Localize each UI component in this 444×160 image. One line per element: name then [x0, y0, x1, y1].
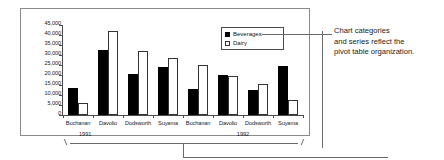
y-tick-mark: [59, 65, 63, 66]
y-tick-mark: [59, 95, 63, 96]
annotation-note: Chart categories and series reflect the …: [334, 26, 442, 58]
bar-beverages-buchanan-4[interactable]: [188, 89, 198, 115]
y-tick-mark: [59, 75, 63, 76]
x-group-label: 1992: [183, 130, 303, 138]
bar-dairy-davolio-1[interactable]: [108, 31, 118, 115]
bar-dairy-dodsworth-6[interactable]: [258, 84, 268, 115]
bar-beverages-davolio-1[interactable]: [98, 50, 108, 115]
y-tick-mark: [59, 105, 63, 106]
bar-group: [153, 25, 183, 115]
chart-legend[interactable]: Beverages Dairy: [221, 27, 284, 50]
y-axis-tick-labels: 05,00010,00015,00020,00025,00030,00035,0…: [25, 23, 61, 113]
callout-leader-from-legend: [262, 34, 322, 35]
bar-beverages-suyama-7[interactable]: [278, 66, 288, 115]
bracket-bar: [70, 143, 298, 144]
x-tick-mark: [153, 115, 154, 118]
legend-label-dairy: Dairy: [233, 39, 247, 48]
annotation-line-2: and series reflect the: [334, 37, 442, 48]
x-tick-mark: [93, 115, 94, 118]
callout-leader-to-note: [322, 34, 332, 35]
legend-swatch-icon-beverages: [225, 32, 230, 37]
bracket-right-tip-icon: [295, 139, 305, 145]
x-axis-category-labels: BuchananDavolioDodsworthSuyamaBuchananDa…: [63, 119, 303, 128]
bar-beverages-suyama-3[interactable]: [158, 67, 168, 115]
bar-group: [123, 25, 153, 115]
bracket-leader-vertical: [183, 143, 184, 157]
category-span-bracket: [65, 139, 303, 145]
bar-group: [63, 25, 93, 115]
bar-dairy-davolio-5[interactable]: [228, 76, 238, 115]
bar-dairy-buchanan-4[interactable]: [198, 65, 208, 115]
x-tick-mark: [183, 115, 184, 118]
bracket-leader-horizontal: [183, 157, 388, 158]
annotation-line-1: Chart categories: [334, 26, 442, 37]
bracket-left-tip-icon: [64, 139, 74, 145]
y-tick-mark: [59, 55, 63, 56]
x-tick-mark: [213, 115, 214, 118]
legend-label-beverages: Beverages: [233, 30, 262, 39]
y-tick-mark: [59, 45, 63, 46]
callout-leader-vertical: [322, 31, 323, 148]
bar-dairy-suyama-3[interactable]: [168, 58, 178, 115]
bar-dairy-buchanan-0[interactable]: [78, 103, 88, 115]
legend-entry-dairy: Dairy: [225, 39, 280, 48]
x-tick-mark: [273, 115, 274, 118]
x-category-label: Suyama: [270, 119, 306, 127]
x-group-label: 1991: [63, 130, 199, 138]
bar-dairy-suyama-7[interactable]: [288, 100, 298, 115]
bar-beverages-buchanan-0[interactable]: [68, 88, 78, 115]
x-tick-mark: [303, 115, 304, 118]
screenshot-root: 05,00010,00015,00020,00025,00030,00035,0…: [0, 0, 444, 160]
x-axis-group-labels: 19911992: [63, 130, 303, 139]
bar-group: [183, 25, 213, 115]
bar-group: [93, 25, 123, 115]
y-tick-mark: [59, 85, 63, 86]
x-tick-mark: [63, 115, 64, 118]
plot-area: 05,00010,00015,00020,00025,00030,00035,0…: [21, 9, 311, 137]
bar-dairy-dodsworth-2[interactable]: [138, 51, 148, 115]
bar-beverages-dodsworth-6[interactable]: [248, 90, 258, 115]
chart-object[interactable]: 05,00010,00015,00020,00025,00030,00035,0…: [20, 8, 310, 136]
y-tick-mark: [59, 25, 63, 26]
annotation-line-3: pivot table organization.: [334, 47, 442, 58]
bar-beverages-davolio-5[interactable]: [218, 75, 228, 115]
x-tick-mark: [123, 115, 124, 118]
legend-swatch-icon-dairy: [225, 41, 230, 46]
bar-beverages-dodsworth-2[interactable]: [128, 74, 138, 115]
y-tick-mark: [59, 35, 63, 36]
x-tick-mark: [243, 115, 244, 118]
